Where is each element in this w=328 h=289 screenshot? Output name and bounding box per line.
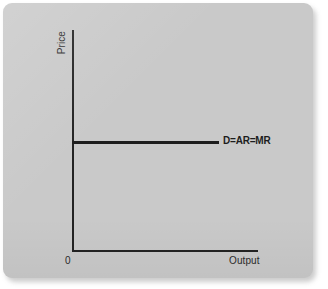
- plot-area: Price Output 0 D=AR=MR: [3, 3, 313, 278]
- demand-curve-line: [72, 141, 219, 144]
- origin-label: 0: [65, 256, 71, 266]
- figure-card: Price Output 0 D=AR=MR: [3, 3, 313, 278]
- x-axis-label: Output: [229, 256, 260, 266]
- y-axis-label: Price: [57, 31, 67, 89]
- x-axis-line: [72, 250, 258, 252]
- demand-curve-label: D=AR=MR: [223, 136, 271, 146]
